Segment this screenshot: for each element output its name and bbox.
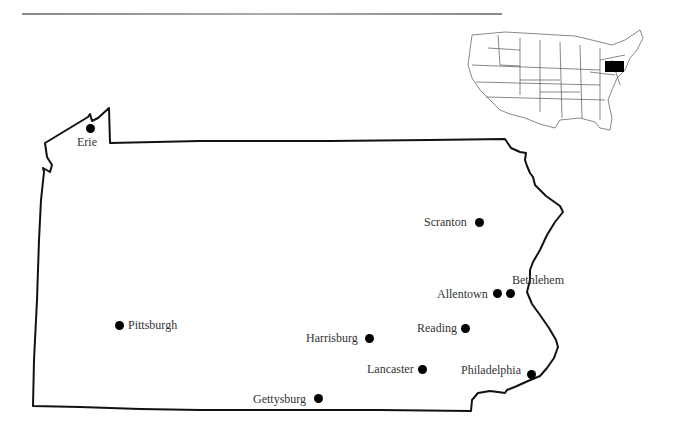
city-dot-harrisburg xyxy=(365,334,374,343)
city-label-erie: Erie xyxy=(77,135,97,149)
city-dot-reading xyxy=(461,324,470,333)
city-dot-allentown xyxy=(493,289,502,298)
us-inset-map xyxy=(468,30,643,130)
city-label-pittsburgh: Pittsburgh xyxy=(128,318,177,332)
city-label-harrisburg: Harrisburg xyxy=(306,331,358,345)
city-label-bethlehem: Bethlehem xyxy=(512,273,564,287)
city-label-scranton: Scranton xyxy=(424,215,467,229)
city-dot-pittsburgh xyxy=(115,321,124,330)
city-label-lancaster: Lancaster xyxy=(367,362,414,376)
city-dot-bethlehem xyxy=(506,289,515,298)
city-label-reading: Reading xyxy=(417,321,457,335)
pennsylvania-map xyxy=(0,0,676,442)
pennsylvania-highlight xyxy=(605,61,624,72)
city-dot-erie xyxy=(86,124,95,133)
city-dot-scranton xyxy=(475,218,484,227)
city-label-allentown: Allentown xyxy=(437,287,488,301)
city-dot-philadelphia xyxy=(527,370,536,379)
city-dot-lancaster xyxy=(418,365,427,374)
city-label-gettysburg: Gettysburg xyxy=(253,392,306,406)
city-dot-gettysburg xyxy=(314,394,323,403)
city-label-philadelphia: Philadelphia xyxy=(461,363,521,377)
